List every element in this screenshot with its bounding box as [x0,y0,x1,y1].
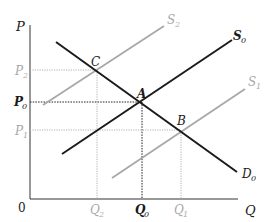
demand-curve-d0 [56,42,237,172]
svg-text:1: 1 [23,131,28,140]
svg-text:0: 0 [241,36,246,45]
svg-text:0: 0 [251,174,256,183]
x-axis-label: Q [245,203,256,218]
origin-label: 0 [18,201,26,215]
point-label-c: C [91,55,100,69]
curve-label-s0: S 0 [233,29,246,45]
curve-label-d0: D 0 [241,167,256,183]
supply-curve-s1 [112,89,245,178]
svg-text:1: 1 [256,82,261,91]
svg-text:2: 2 [98,210,104,219]
svg-text:2: 2 [174,20,180,29]
curve-label-s1: S 1 [248,75,261,91]
svg-text:0: 0 [22,102,27,111]
quantity-label-q2: Q 2 [90,203,104,219]
quantity-label-q0: Q 0 [135,203,149,219]
price-label-p0: P 0 [13,95,27,111]
point-label-b: B [176,114,186,128]
svg-text:1: 1 [183,210,188,219]
supply-demand-diagram: P Q 0 P 2 P 0 P 1 Q 2 Q 0 Q 1 S 2 S 0 S … [0,0,270,222]
quantity-label-q1: Q 1 [174,203,188,219]
svg-text:S: S [248,75,256,89]
price-label-p2: P 2 [14,64,28,80]
svg-text:0: 0 [144,210,149,219]
curve-label-s2: S 2 [167,13,180,29]
y-axis-label: P [15,19,25,34]
point-label-a: A [136,87,146,101]
svg-text:2: 2 [22,71,28,80]
svg-text:S: S [167,13,175,27]
supply-curve-s0 [62,40,232,154]
price-label-p1: P 1 [14,124,28,140]
